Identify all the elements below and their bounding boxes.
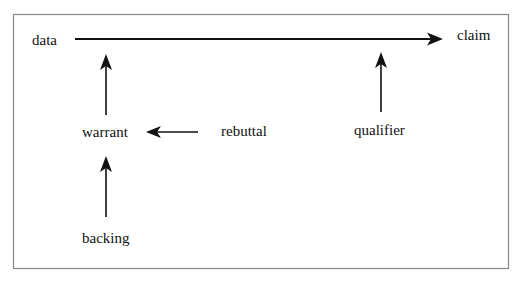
toulmin-diagram: data claim warrant rebuttal qualifier ba…	[0, 0, 521, 284]
node-qualifier: qualifier	[354, 122, 405, 138]
node-warrant: warrant	[82, 124, 129, 140]
node-data: data	[32, 32, 57, 48]
node-rebuttal: rebuttal	[221, 123, 267, 139]
node-backing: backing	[82, 230, 130, 246]
node-claim: claim	[457, 27, 491, 43]
